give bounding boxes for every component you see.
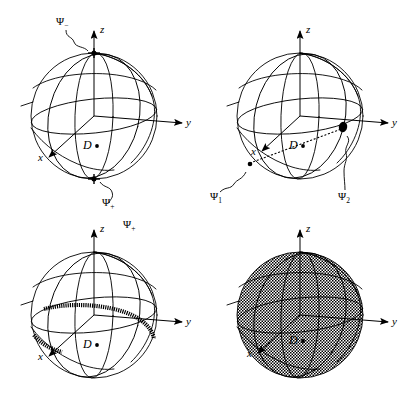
- psi-minus-label: Ψ−: [56, 16, 68, 30]
- center-label-D: D: [83, 139, 92, 151]
- z-axis-label: z: [306, 223, 310, 234]
- oblique-arc-right-2: [300, 53, 358, 96]
- psi-2-label: Ψ2: [338, 191, 350, 205]
- psi-plus-label: Ψ+: [123, 219, 135, 233]
- center-point-D: [95, 144, 99, 148]
- band-front: [44, 305, 154, 339]
- y-axis-label: y: [186, 117, 191, 128]
- center-label-D: D: [289, 139, 298, 151]
- panel-2: z y x D Ψ1 Ψ2: [206, 0, 412, 210]
- psi-2-leader: [344, 136, 349, 190]
- panel-4: z y x D: [206, 205, 412, 400]
- oblique-arc-right-2: [94, 53, 152, 96]
- psi-1-leader: [220, 172, 246, 192]
- x-axis-label: x: [38, 152, 43, 163]
- z-axis-label: z: [100, 223, 104, 234]
- edge-tick: [227, 301, 239, 305]
- edge-tick: [21, 102, 33, 106]
- x-axis-label: x: [251, 146, 256, 157]
- y-axis: [94, 116, 182, 123]
- edge-tick: [21, 301, 33, 305]
- psi-minus-leader: [66, 30, 88, 51]
- center-label-D: D: [289, 334, 298, 346]
- panel-1: Ψ− z y x D Ψ+: [0, 0, 206, 210]
- panel-3: z Ψ+ y x D: [0, 205, 206, 400]
- edge-tick: [227, 102, 239, 106]
- center-point-D: [301, 144, 305, 148]
- z-axis-label: z: [306, 24, 310, 35]
- panel-4-drawing: [206, 205, 412, 400]
- y-axis-label: y: [392, 316, 397, 327]
- y-axis-label: y: [186, 316, 191, 327]
- x-axis-label: x: [247, 348, 252, 359]
- panel-3-drawing: [0, 205, 206, 400]
- center-point-D: [301, 339, 305, 343]
- psi-1-label: Ψ1: [210, 191, 222, 205]
- oblique-arc-right: [300, 53, 361, 163]
- oblique-arc-right: [94, 53, 155, 163]
- center-label-D: D: [83, 338, 92, 350]
- psi-1-point: [248, 162, 253, 167]
- x-axis-label: x: [38, 351, 43, 362]
- figure-root: Ψ− z y x D Ψ+: [0, 0, 412, 400]
- center-point-D: [95, 343, 99, 347]
- oblique-arc-right-2: [94, 252, 152, 295]
- z-axis-label: z: [100, 24, 104, 35]
- y-axis-label: y: [392, 117, 397, 128]
